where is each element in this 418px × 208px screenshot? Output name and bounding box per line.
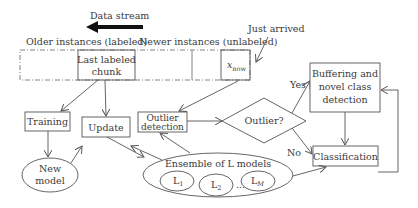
feedback-loop-arrow <box>378 90 398 172</box>
ensemble-label: Ensemble of L models <box>165 158 271 169</box>
just-arrived-label: Just arrived <box>247 23 305 34</box>
last-chunk-label-1: Last labeled <box>77 54 136 65</box>
buffering-label-3: detection <box>322 94 367 105</box>
last-chunk-label-2: chunk <box>92 66 122 77</box>
stream-classification-diagram: Data stream Older instances (labeled) Ne… <box>0 0 418 208</box>
buffering-label-1: Buffering and <box>312 68 378 79</box>
newer-instances-label: Newer instances (unlabeled) <box>139 36 278 47</box>
update-label: Update <box>88 122 124 133</box>
outlier-decision-label: Outlier? <box>244 115 283 126</box>
no-label: No <box>287 147 301 158</box>
new-model-label-1: New <box>39 163 61 174</box>
outlier-detection-label-2: detection <box>141 122 184 132</box>
older-instances-label: Older instances (labeled) <box>26 36 147 47</box>
yes-label: Yes <box>289 79 306 90</box>
data-stream-label: Data stream <box>90 10 149 21</box>
xnow-label: xnow <box>227 59 246 73</box>
buffering-label-2: novel class <box>319 81 372 92</box>
classification-label: Classification <box>313 151 378 162</box>
data-stream-arrow-icon <box>86 21 143 33</box>
new-model-label-2: model <box>35 175 64 186</box>
training-label: Training <box>27 116 68 127</box>
